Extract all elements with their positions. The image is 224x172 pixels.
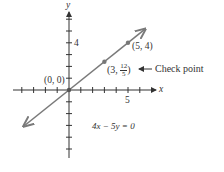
- x-axis-label: x: [159, 85, 163, 95]
- x-tick-label: 5: [125, 96, 130, 106]
- graph-line: [69, 29, 145, 90]
- equation-label: 4x − 5y = 0: [92, 122, 135, 131]
- check-point-annotation: Check point: [155, 64, 204, 74]
- graph-line: [24, 90, 69, 126]
- point-5-4: [126, 41, 130, 45]
- y-tick-label: 4: [74, 39, 79, 49]
- coordinate-plane: [0, 0, 224, 172]
- y-axis-label: y: [66, 1, 70, 11]
- point-label-origin: (0, 0): [44, 76, 65, 86]
- point-label-check: (3, 125): [107, 63, 131, 78]
- point-check: [102, 60, 106, 64]
- point-label-5-4: (5, 4): [132, 42, 153, 52]
- point-origin: [67, 88, 71, 92]
